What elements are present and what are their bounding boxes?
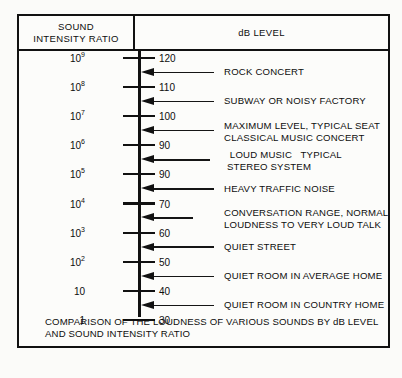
arrow-shaft [154, 276, 214, 277]
tick-mark-right [138, 202, 155, 204]
annotation-label: MAXIMUM LEVEL, TYPICAL SEATCLASSICAL MUS… [224, 120, 380, 144]
arrow-shaft [154, 246, 214, 247]
ratio-tick-label: 105 [70, 169, 85, 180]
arrow-left-icon [141, 272, 154, 280]
ratio-tick-label: 107 [70, 111, 85, 122]
arrow-left-icon [141, 243, 154, 251]
ratio-exponent: 8 [81, 80, 85, 87]
ratio-tick-label: 102 [70, 256, 85, 267]
tick-mark-right [138, 57, 155, 59]
tick-mark-right [138, 86, 155, 88]
ratio-tick-label: 104 [70, 198, 85, 209]
ratio-exponent: 2 [81, 255, 85, 262]
arrow-left-icon [141, 301, 154, 309]
ratio-exponent: 9 [81, 51, 85, 58]
annotation-label: ROCK CONCERT [224, 66, 304, 78]
annotation-label: CONVERSATION RANGE, NORMALLOUDNESS TO VE… [224, 207, 388, 231]
ratio-base: 10 [70, 111, 81, 122]
ratio-tick-label: 10 [74, 285, 85, 296]
figure-caption-line2: AND SOUND INTENSITY RATIO [45, 328, 385, 340]
annotation-label-line1: HEAVY TRAFFIC NOISE [224, 183, 335, 195]
ratio-base: 10 [70, 82, 81, 93]
ratio-base: 10 [70, 198, 81, 209]
figure-caption: COMPARISON OF THE LOUDNESS OF VARIOUS SO… [45, 316, 385, 341]
annotation-label-line2: STEREO SYSTEM [227, 161, 342, 173]
ratio-exponent: 3 [81, 226, 85, 233]
annotation-label: QUIET ROOM IN COUNTRY HOME [224, 299, 384, 311]
column-header-ratio-line2: INTENSITY RATIO [33, 33, 119, 45]
tick-mark-right [138, 261, 155, 263]
column-header-ratio-line1: SOUND [33, 21, 119, 33]
ratio-tick-label: 109 [70, 53, 85, 64]
db-tick-label: 120 [159, 53, 176, 64]
arrow-left-icon [141, 155, 154, 163]
arrow-shaft [154, 101, 214, 102]
db-tick-label: 60 [159, 227, 170, 238]
db-tick-label: 110 [159, 82, 175, 93]
ratio-base: 10 [70, 169, 81, 180]
arrow-shaft [154, 72, 214, 73]
db-tick-label: 90 [159, 169, 170, 180]
annotation-label-line1: MAXIMUM LEVEL, TYPICAL SEAT [224, 120, 380, 132]
column-header-db-label: dB LEVEL [238, 27, 285, 39]
tick-mark-right [138, 173, 155, 175]
annotation-label-line1: QUIET STREET [224, 241, 296, 253]
annotation-label: LOUD MUSIC TYPICALSTEREO SYSTEM [227, 149, 342, 173]
arrow-shaft [154, 217, 193, 218]
ratio-exponent: 6 [81, 138, 85, 145]
arrow-shaft [154, 305, 214, 306]
column-header-db-level: dB LEVEL [135, 16, 388, 49]
annotation-label-line1: SUBWAY OR NOISY FACTORY [224, 95, 366, 107]
arrow-shaft [154, 130, 214, 131]
arrow-shaft [154, 159, 210, 160]
annotation-label-line1: QUIET ROOM IN AVERAGE HOME [224, 270, 382, 282]
ratio-tick-label: 108 [70, 82, 85, 93]
arrow-left-icon [141, 213, 154, 221]
ratio-base: 10 [70, 140, 81, 151]
arrow-left-icon [141, 68, 154, 76]
db-tick-label: 50 [159, 256, 170, 267]
annotation-label: QUIET ROOM IN AVERAGE HOME [224, 270, 382, 282]
ratio-exponent: 4 [81, 197, 85, 204]
annotation-label-line1: ROCK CONCERT [224, 66, 304, 78]
annotation-label: SUBWAY OR NOISY FACTORY [224, 95, 366, 107]
arrow-left-icon [141, 184, 154, 192]
tick-mark-right [138, 232, 155, 234]
annotation-label-line1: QUIET ROOM IN COUNTRY HOME [224, 299, 384, 311]
ratio-base: 10 [70, 53, 81, 64]
figure-page: SOUND INTENSITY RATIO dB LEVEL 109120108… [0, 0, 402, 378]
db-tick-label: 100 [159, 111, 176, 122]
arrow-left-icon [141, 97, 154, 105]
db-tick-label: 90 [159, 140, 170, 151]
column-header-sound-intensity-ratio: SOUND INTENSITY RATIO [19, 16, 135, 49]
figure-caption-line1: COMPARISON OF THE LOUDNESS OF VARIOUS SO… [45, 316, 385, 328]
arrow-left-icon [141, 126, 154, 134]
ratio-base: 10 [70, 256, 81, 267]
tick-mark-right [138, 115, 155, 117]
tick-mark-right [138, 144, 155, 146]
figure-frame: SOUND INTENSITY RATIO dB LEVEL 109120108… [17, 14, 390, 348]
table-header-row: SOUND INTENSITY RATIO dB LEVEL [19, 16, 388, 51]
annotation-label: QUIET STREET [224, 241, 296, 253]
annotation-label: HEAVY TRAFFIC NOISE [224, 183, 335, 195]
ratio-base: 10 [70, 227, 81, 238]
annotation-label-line1: LOUD MUSIC TYPICAL [227, 149, 342, 161]
arrow-shaft [154, 188, 214, 189]
ratio-tick-label: 106 [70, 140, 85, 151]
annotation-label-line2: LOUDNESS TO VERY LOUD TALK [224, 219, 388, 231]
annotation-label-line1: CONVERSATION RANGE, NORMAL [224, 207, 388, 219]
db-tick-label: 70 [159, 198, 170, 209]
scale-chart-body: 1091201081101071001069010590104701036010… [19, 51, 388, 346]
db-tick-label: 40 [159, 285, 170, 296]
annotation-label-line2: CLASSICAL MUSIC CONCERT [224, 132, 380, 144]
ratio-tick-label: 103 [70, 227, 85, 238]
ratio-exponent: 5 [81, 168, 85, 175]
tick-mark-right [138, 290, 155, 292]
ratio-exponent: 7 [81, 109, 85, 116]
